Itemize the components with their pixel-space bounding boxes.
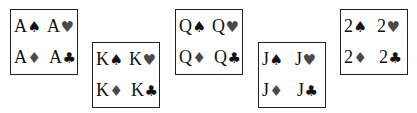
card-label-heart: Q♥ xyxy=(212,16,238,37)
diamond-icon: ♦ xyxy=(193,49,206,67)
spade-icon: ♠ xyxy=(28,18,41,36)
heart-icon: ♥ xyxy=(61,18,74,36)
heart-icon: ♥ xyxy=(303,51,316,69)
card-box-2: 2♠2♥2♦2♣ xyxy=(340,9,408,75)
card-label-heart: J♥ xyxy=(295,49,315,70)
card-label-spade: 2♠ xyxy=(344,16,366,37)
rank-label: A xyxy=(47,16,60,36)
club-icon: ♣ xyxy=(389,49,402,67)
rank-label: 2 xyxy=(344,16,353,36)
card-label-spade: A♠ xyxy=(14,16,40,37)
rank-label: K xyxy=(96,49,109,69)
spade-icon: ♠ xyxy=(354,18,367,36)
club-icon: ♣ xyxy=(63,49,76,67)
diamond-icon: ♦ xyxy=(270,82,283,100)
card-label-diamond: 2♦ xyxy=(344,47,366,68)
card-label-diamond: A♦ xyxy=(14,47,40,68)
rank-label: Q xyxy=(214,47,227,67)
spade-icon: ♠ xyxy=(270,51,283,69)
rank-label: J xyxy=(297,80,304,100)
rank-label: 2 xyxy=(379,47,388,67)
card-label-spade: Q♠ xyxy=(179,16,205,37)
rank-label: J xyxy=(262,49,269,69)
card-label-spade: K♠ xyxy=(96,49,122,70)
rank-label: Q xyxy=(179,16,192,36)
heart-icon: ♥ xyxy=(387,18,400,36)
club-icon: ♣ xyxy=(305,82,318,100)
heart-icon: ♥ xyxy=(143,51,156,69)
club-icon: ♣ xyxy=(228,49,241,67)
rank-label: A xyxy=(49,47,62,67)
diamond-icon: ♦ xyxy=(110,82,123,100)
card-label-club: A♣ xyxy=(49,47,75,68)
card-label-spade: J♠ xyxy=(262,49,282,70)
card-box-k: K♠K♥K♦K♣ xyxy=(92,42,160,108)
diamond-icon: ♦ xyxy=(28,49,41,67)
spade-icon: ♠ xyxy=(193,18,206,36)
card-label-club: J♣ xyxy=(297,80,317,101)
card-box-a: A♠A♥A♦A♣ xyxy=(10,9,78,75)
rank-label: A xyxy=(14,47,27,67)
card-label-club: K♣ xyxy=(131,80,157,101)
spade-icon: ♠ xyxy=(110,51,123,69)
heart-icon: ♥ xyxy=(226,18,239,36)
card-label-diamond: Q♦ xyxy=(179,47,205,68)
rank-label: K xyxy=(131,80,144,100)
rank-label: A xyxy=(14,16,27,36)
card-label-club: Q♣ xyxy=(214,47,240,68)
card-label-diamond: J♦ xyxy=(262,80,282,101)
rank-label: K xyxy=(96,80,109,100)
rank-label: Q xyxy=(179,47,192,67)
card-label-heart: 2♥ xyxy=(377,16,399,37)
diamond-icon: ♦ xyxy=(354,49,367,67)
card-label-heart: A♥ xyxy=(47,16,73,37)
rank-label: 2 xyxy=(344,47,353,67)
rank-label: K xyxy=(129,49,142,69)
card-box-j: J♠J♥J♦J♣ xyxy=(258,42,326,108)
rank-label: J xyxy=(295,49,302,69)
card-label-diamond: K♦ xyxy=(96,80,122,101)
card-label-heart: K♥ xyxy=(129,49,155,70)
card-label-club: 2♣ xyxy=(379,47,401,68)
card-box-q: Q♠Q♥Q♦Q♣ xyxy=(175,9,243,75)
rank-label: 2 xyxy=(377,16,386,36)
rank-label: Q xyxy=(212,16,225,36)
club-icon: ♣ xyxy=(145,82,158,100)
rank-label: J xyxy=(262,80,269,100)
